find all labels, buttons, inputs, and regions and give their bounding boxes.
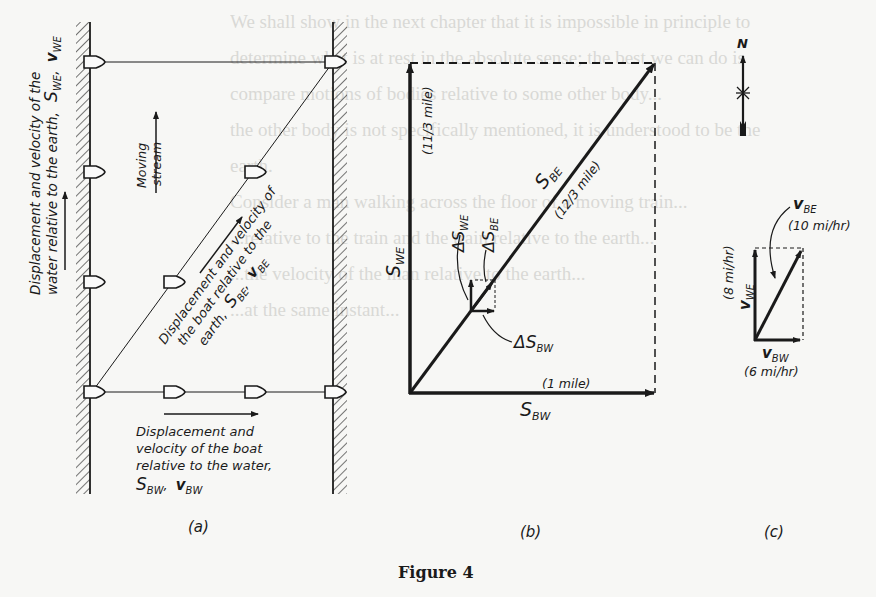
boat-water-label: Displacement and velocity of the boat re… xyxy=(136,424,272,496)
v-be-label: vBE xyxy=(793,194,817,215)
figure-canvas: Displacement and velocity of the water r… xyxy=(0,0,876,597)
v-be-value: (10 mi/hr) xyxy=(788,218,851,233)
svg-text:ΔSBE: ΔSBE xyxy=(479,217,500,254)
left-riverbank xyxy=(76,22,90,494)
delta-s-we-label: ΔSWE xyxy=(449,214,470,254)
svg-text:(11/3 mile): (11/3 mile) xyxy=(420,86,435,155)
svg-text:(8 mi/hr): (8 mi/hr) xyxy=(721,245,736,300)
svg-text:stream: stream xyxy=(149,142,164,186)
svg-text:ΔSWE: ΔSWE xyxy=(449,214,470,254)
svg-text:vWE: vWE xyxy=(736,283,756,310)
figure-4: We shall show in the next chapter that i… xyxy=(0,0,876,597)
svg-text:velocity of the boat: velocity of the boat xyxy=(136,441,263,456)
boat-earth-path xyxy=(92,62,333,392)
s-bw-label: SBW xyxy=(520,398,552,423)
panel-a-label: (a) xyxy=(188,518,209,536)
svg-text:relative to the water,: relative to the water, xyxy=(136,458,272,473)
delta-s-bw-label: ΔSBW xyxy=(512,332,554,354)
panel-a: Displacement and velocity of the water r… xyxy=(27,22,347,536)
moving-stream-label: Moving stream xyxy=(134,142,164,188)
svg-text:SWE: SWE xyxy=(382,247,407,277)
v-bw-value: (6 mi/hr) xyxy=(744,364,799,379)
svg-text:water relative to the earth,: water relative to the earth, SWE, vWE xyxy=(41,36,63,295)
v-be-vector xyxy=(755,251,801,340)
delta-s-be-label: ΔSBE xyxy=(479,217,500,254)
boat-earth-label: Displacement and velocity of the boat re… xyxy=(155,183,309,368)
svg-text:Moving: Moving xyxy=(134,143,149,188)
v-be-leader xyxy=(770,207,790,278)
svg-text:SBW, vBW: SBW, vBW xyxy=(136,474,203,496)
panel-b: SWE (11/3 mile) ΔSWE ΔSBE ΔSBW SBE (12/3… xyxy=(382,63,655,541)
v-we-value: (8 mi/hr) xyxy=(721,245,736,300)
v-we-label: vWE xyxy=(736,283,756,310)
svg-text:Displacement and: Displacement and xyxy=(136,424,255,439)
compass-north-icon: N xyxy=(736,36,750,136)
svg-text:Displacement and velocity of t: Displacement and velocity of the xyxy=(27,72,43,295)
s-bw-value: (1 mile) xyxy=(542,376,591,391)
s-we-label: SWE xyxy=(382,247,407,277)
s-we-value: (11/3 mile) xyxy=(420,86,435,155)
panel-c: N vBE (10 mi/hr) (8 mi/hr) vWE xyxy=(721,36,851,541)
svg-text:the boat relative to the: the boat relative to the xyxy=(174,217,275,348)
water-label: Displacement and velocity of the water r… xyxy=(27,36,63,295)
panel-c-label: (c) xyxy=(764,523,784,541)
right-riverbank xyxy=(333,22,347,494)
panel-b-label: (b) xyxy=(520,523,541,541)
figure-caption: Figure 4 xyxy=(398,563,474,582)
svg-text:N: N xyxy=(737,36,748,51)
v-bw-label: vBW xyxy=(762,344,790,364)
